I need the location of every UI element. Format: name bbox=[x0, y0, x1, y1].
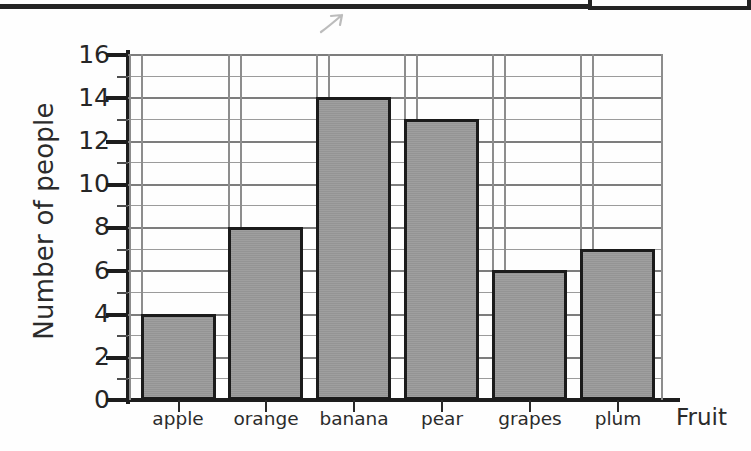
x-tick-label-banana: banana bbox=[314, 410, 394, 429]
y-tick-label-2: 2 bbox=[58, 344, 110, 369]
y-axis-tick-11 bbox=[117, 162, 128, 164]
y-tick-label-14: 14 bbox=[58, 85, 110, 110]
y-axis-tick-8 bbox=[106, 226, 128, 230]
y-tick-label-6: 6 bbox=[58, 258, 110, 283]
gridline-y-11 bbox=[128, 162, 663, 163]
y-axis-tick-15 bbox=[117, 76, 128, 78]
y-axis-tick-10 bbox=[106, 183, 128, 187]
y-axis-tick-9 bbox=[117, 205, 128, 207]
x-tick-label-apple: apple bbox=[138, 410, 218, 429]
y-tick-label-12: 12 bbox=[58, 128, 110, 153]
y-axis-tick-4 bbox=[106, 313, 128, 317]
y-tick-label-10: 10 bbox=[58, 171, 110, 196]
gridline-y-12 bbox=[128, 141, 663, 143]
y-tick-label-4: 4 bbox=[58, 301, 110, 326]
bar-chart: Number of people 16 14 12 10 8 6 4 2 0 bbox=[0, 0, 751, 451]
y-axis-tick-6 bbox=[106, 269, 128, 273]
bar-banana[interactable] bbox=[316, 97, 391, 400]
y-axis-tick-1 bbox=[117, 378, 128, 380]
y-axis-tick-13 bbox=[117, 119, 128, 121]
y-axis-tick-7 bbox=[117, 249, 128, 251]
gridline-y-8 bbox=[128, 227, 663, 229]
y-tick-label-0: 0 bbox=[58, 387, 110, 412]
bar-plum[interactable] bbox=[580, 249, 655, 400]
bar-orange[interactable] bbox=[228, 227, 303, 400]
x-tick-label-pear: pear bbox=[402, 410, 482, 429]
y-axis-tick-0 bbox=[106, 398, 128, 402]
scanned-page: Number of people 16 14 12 10 8 6 4 2 0 bbox=[0, 0, 751, 451]
gridline-x-12 bbox=[661, 54, 663, 400]
y-axis-tick-3 bbox=[117, 335, 128, 337]
y-axis-tick-12 bbox=[106, 140, 128, 144]
gridline-y-14 bbox=[128, 97, 663, 99]
gridline-y-10 bbox=[128, 184, 663, 186]
bar-pear[interactable] bbox=[404, 119, 479, 400]
plot-area bbox=[128, 54, 663, 400]
y-axis-title: Number of people bbox=[29, 71, 59, 371]
y-tick-label-16: 16 bbox=[58, 42, 110, 67]
x-axis-title: Fruit bbox=[676, 404, 727, 430]
y-axis-tick-2 bbox=[106, 356, 128, 360]
gridline-y-15 bbox=[128, 76, 663, 77]
x-tick-label-plum: plum bbox=[578, 410, 658, 429]
bar-grapes[interactable] bbox=[492, 270, 567, 400]
y-axis-tick-16 bbox=[106, 53, 128, 57]
bar-apple[interactable] bbox=[141, 314, 216, 401]
gridline-x-0 bbox=[129, 54, 131, 400]
gridline-y-9 bbox=[128, 205, 663, 206]
x-tick-label-grapes: grapes bbox=[490, 410, 570, 429]
x-tick-label-orange: orange bbox=[226, 410, 306, 429]
y-axis-tick-14 bbox=[106, 96, 128, 100]
gridline-y-13 bbox=[128, 119, 663, 120]
y-tick-label-8: 8 bbox=[58, 214, 110, 239]
gridline-y-16 bbox=[128, 54, 663, 56]
y-axis-tick-5 bbox=[117, 292, 128, 294]
